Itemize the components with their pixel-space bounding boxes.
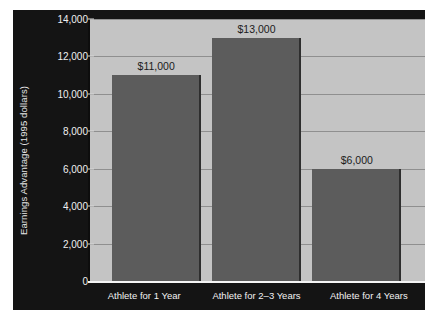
y-tick-mark bbox=[88, 206, 94, 207]
y-tick-label: 14,000 bbox=[35, 14, 88, 25]
x-axis-baseline bbox=[88, 281, 425, 283]
plot-area: $11,000$13,000$6,000 bbox=[88, 19, 425, 281]
y-tick-mark bbox=[88, 131, 94, 132]
bar-value-label: $11,000 bbox=[112, 60, 201, 72]
y-tick-mark bbox=[88, 168, 94, 169]
y-tick-mark bbox=[88, 19, 94, 20]
bar-value-label: $6,000 bbox=[312, 154, 401, 166]
y-tick-label: 8,000 bbox=[35, 126, 88, 137]
x-tick-label: Athlete for 1 Year bbox=[88, 290, 200, 301]
y-axis-tick-labels: 02,0004,0006,0008,00010,00012,00014,000 bbox=[35, 10, 88, 310]
y-tick-mark bbox=[88, 243, 94, 244]
y-tick-mark bbox=[88, 93, 94, 94]
x-tick-label: Athlete for 4 Years bbox=[313, 290, 425, 301]
x-tick-label: Athlete for 2–3 Years bbox=[200, 290, 312, 301]
y-tick-label: 6,000 bbox=[35, 163, 88, 174]
bar-value-label: $13,000 bbox=[212, 23, 301, 35]
bar bbox=[312, 169, 401, 281]
y-tick-label: 2,000 bbox=[35, 238, 88, 249]
x-axis-tick-labels: Athlete for 1 YearAthlete for 2–3 YearsA… bbox=[88, 286, 425, 310]
bar bbox=[212, 38, 301, 281]
y-axis-title: Earnings Advantage (1995 dollars) bbox=[13, 10, 35, 310]
y-tick-label: 10,000 bbox=[35, 88, 88, 99]
bar bbox=[112, 75, 201, 281]
y-tick-label: 12,000 bbox=[35, 51, 88, 62]
y-tick-mark bbox=[88, 56, 94, 57]
bars-group: $11,000$13,000$6,000 bbox=[88, 19, 425, 281]
y-tick-label: 4,000 bbox=[35, 201, 88, 212]
y-tick-label: 0 bbox=[35, 276, 88, 287]
bar-chart-figure: Earnings Advantage (1995 dollars) 02,000… bbox=[13, 10, 425, 310]
y-axis-title-text: Earnings Advantage (1995 dollars) bbox=[19, 85, 30, 234]
